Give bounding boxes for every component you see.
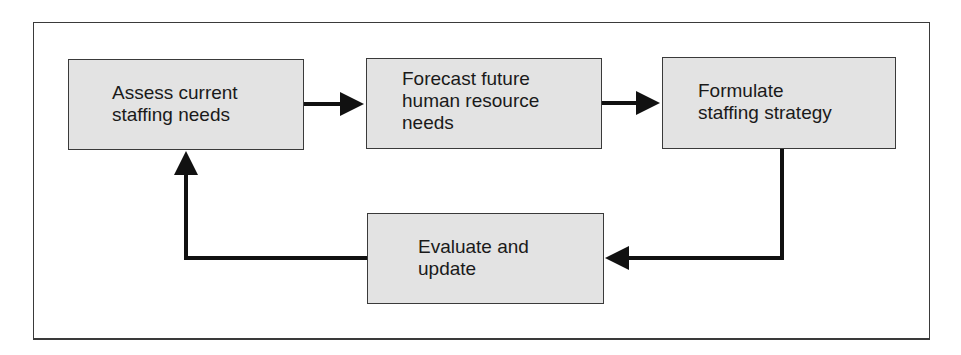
node-label: Evaluate and update [418, 236, 529, 280]
arrow-evaluate-to-assess [186, 155, 367, 258]
node-formulate-staffing-strategy: Formulate staffing strategy [662, 57, 896, 149]
node-label: Assess current staffing needs [112, 82, 238, 126]
node-label: Formulate staffing strategy [698, 80, 832, 124]
node-forecast-future-hr-needs: Forecast future human resource needs [366, 58, 602, 149]
node-evaluate-and-update: Evaluate and update [367, 213, 604, 304]
node-label: Forecast future human resource needs [402, 68, 539, 134]
arrow-formulate-to-evaluate [609, 148, 782, 258]
node-assess-current-staffing-needs: Assess current staffing needs [68, 59, 304, 150]
